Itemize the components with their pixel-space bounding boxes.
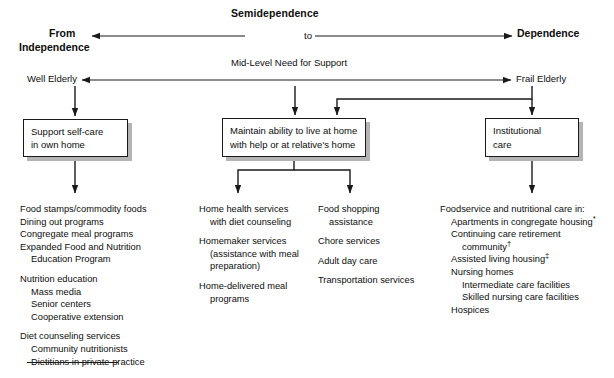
label-frail-elderly: Frail Elderly [516,74,566,84]
label-independence: Independence [19,42,90,53]
list-item: community† [440,241,596,254]
list-item: Education Program [20,253,147,266]
diagram-title: Semidependence [231,8,319,19]
list-item: Congregate meal programs [20,228,147,241]
footnote-separator-rule [27,362,118,363]
list-support-services: Food shoppingassistanceChore servicesAdu… [318,203,414,287]
list-home-services: Home health serviceswith diet counseling… [199,203,299,305]
list-item: Expanded Food and Nutrition [20,241,147,254]
list-item: Homemaker services [199,235,299,248]
list-item: Dining out programs [20,216,147,229]
list-item: Senior centers [20,298,147,311]
list-spacer [318,248,414,255]
list-item: Food shopping [318,203,414,216]
diagram-canvas: Semidependence From Independence to Depe… [0,0,614,378]
list-item: Intermediate care facilities [440,279,596,292]
list-spacer [318,228,414,235]
box-self-care-line1: Support self-care [31,125,120,139]
list-item: with diet counseling [199,216,299,229]
label-dependence: Dependence [517,28,579,39]
list-item: Mass media [20,286,147,299]
list-item: Assisted living housing‡ [440,253,596,266]
list-item: Nursing homes [440,266,596,279]
footnote-marker: † [507,239,511,248]
list-spacer [20,323,147,330]
box-maintain-ability-live-at-home: Maintain ability to live at home with he… [222,118,366,157]
box-institutional-line2: care [493,138,571,152]
list-item: Adult day care [318,255,414,268]
list-institutional-services: Foodservice and nutritional care in:Apar… [440,203,596,316]
footnote-marker: ‡ [545,251,549,260]
list-spacer [20,266,147,273]
arrow-maintain-to-home-list [238,158,294,193]
list-item: Diet counseling services [20,330,147,343]
list-item: Transportation services [318,274,414,287]
list-spacer [199,228,299,235]
list-item: preparation) [199,260,299,273]
list-item: Skilled nursing care facilities [440,291,596,304]
list-item: assistance [318,216,414,229]
box-maintain-line1: Maintain ability to live at home [230,124,358,138]
box-maintain-line2: with help or at relative's home [230,138,358,152]
box-self-care-line2: in own home [31,138,120,152]
list-spacer [318,267,414,274]
list-item: Apartments in congregate housing* [440,216,596,229]
list-item: (assistance with meal [199,248,299,261]
box-institutional-line1: Institutional [493,124,571,138]
list-spacer [199,273,299,280]
label-well-elderly: Well Elderly [27,74,77,84]
box-institutional-care: Institutional care [485,118,579,157]
label-from: From [49,28,75,39]
label-to: to [301,31,315,41]
list-item: Chore services [318,235,414,248]
list-item: Nutrition education [20,273,147,286]
box-support-self-care: Support self-care in own home [23,119,128,157]
list-item: Home-delivered meal [199,280,299,293]
list-item: programs [199,293,299,306]
list-item: Hospices [440,304,596,317]
footnote-marker: * [593,214,596,223]
list-item: Foodservice and nutritional care in: [440,203,596,216]
arrow-maintain-to-support-list [294,170,350,193]
list-item: Cooperative extension [20,311,147,324]
list-item: Community nutritionists [20,343,147,356]
arrow-frail-branch-to-maintain [337,86,532,115]
label-mid-level-need-for-support: Mid-Level Need for Support [231,58,347,68]
list-item: Home health services [199,203,299,216]
list-well-elderly-services: Food stamps/commodity foodsDining out pr… [20,203,147,368]
list-item: Continuing care retirement [440,228,596,241]
list-item: Food stamps/commodity foods [20,203,147,216]
